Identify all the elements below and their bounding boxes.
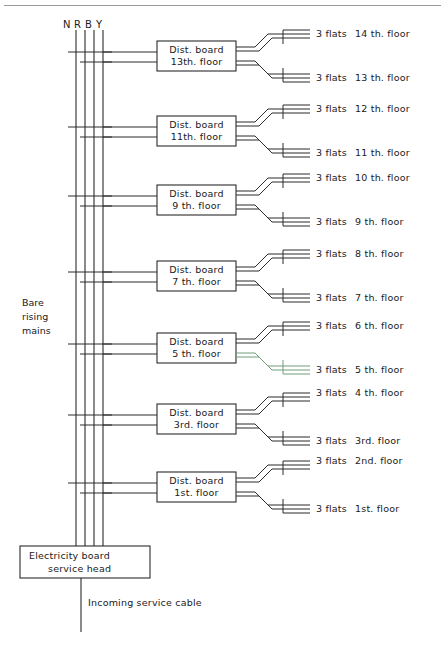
riser-group-1st-floor: Dist. board 1st. floor (68, 461, 310, 513)
flat-feed-flats-10th: 3 flats (316, 172, 347, 183)
service-head-label-line-2: service head (48, 563, 111, 574)
dist-board-label-line1-7: Dist. board (169, 264, 223, 275)
phase-label-N: N (63, 19, 72, 30)
branch-dn-w2-11th (236, 140, 310, 153)
riser-group-7th-floor: Dist. board 7 th. floor (68, 250, 310, 302)
branch-up-w2-12th (236, 113, 310, 126)
rising-mains-label-line-3: mains (22, 325, 51, 336)
dist-board-label-line1-3: Dist. board (169, 407, 223, 418)
branch-up-w2-2nd (236, 469, 310, 482)
flat-feed-flats-3rd: 3 flats (316, 435, 347, 446)
flat-feed-flats-13th: 3 flats (316, 72, 347, 83)
branch-up-w2-6th (236, 330, 310, 343)
rising-mains-label-line-2: rising (22, 311, 48, 322)
incoming-service-cable: Incoming service cable (81, 578, 202, 632)
flat-feed-floor-12th: 12 th. floor (355, 103, 410, 114)
flat-feed-labels: 3 flats 14 th. floor 3 flats 13 th. floo… (316, 28, 410, 514)
flat-feed-floor-1st: 1st. floor (355, 503, 399, 514)
flat-feed-flats-14th: 3 flats (316, 28, 347, 39)
branch-up-w1-6th (236, 326, 310, 339)
riser-group-5th-floor: Dist. board 5 th. floor (68, 322, 310, 374)
branch-dn-w2-3rd (236, 428, 310, 441)
riser-diagram-canvas: N R B Y Bare rising mains Dist. board 13… (0, 0, 445, 648)
branch-up-w1-8th (236, 254, 310, 267)
flat-feed-flats-7th: 3 flats (316, 292, 347, 303)
dist-board-label-line1-1: Dist. board (169, 475, 223, 486)
branch-up-w2-10th (236, 182, 310, 195)
bare-rising-mains-label: Bare rising mains (22, 297, 51, 336)
flat-feed-floor-13th: 13 th. floor (355, 72, 410, 83)
branch-dn-w1-3rd (236, 424, 310, 437)
dist-board-label-line1-9: Dist. board (169, 188, 223, 199)
flat-feed-floor-4th: 4 th. floor (355, 387, 404, 398)
branch-dn-w2-7th (236, 285, 310, 298)
riser-diagram: N R B Y Bare rising mains Dist. board 13… (0, 0, 445, 648)
flat-feed-flats-1st: 3 flats (316, 503, 347, 514)
phase-label-R: R (74, 19, 82, 30)
flat-feed-floor-7th: 7 th. floor (355, 292, 404, 303)
dist-board-label-line2-3: 3rd. floor (174, 419, 219, 430)
dist-board-label-line2-11: 11th. floor (171, 131, 223, 142)
flat-feed-floor-5th: 5 th. floor (355, 364, 404, 375)
branch-dn-w1-11th (236, 136, 310, 149)
dist-board-label-line1-5: Dist. board (169, 336, 223, 347)
flat-feed-flats-6th: 3 flats (316, 320, 347, 331)
branch-dn-w2-1st (236, 496, 310, 509)
flat-feed-flats-9th: 3 flats (316, 216, 347, 227)
flat-feed-floor-6th: 6 th. floor (355, 320, 404, 331)
riser-group-9th-floor: Dist. board 9 th. floor (68, 174, 310, 226)
riser-group-3rd-floor: Dist. board 3rd. floor (68, 393, 310, 445)
flat-feed-floor-10th: 10 th. floor (355, 172, 410, 183)
branch-up-w2-4th (236, 401, 310, 414)
branch-dn-w1-7th (236, 281, 310, 294)
service-head-label-line-1: Electricity board (29, 550, 110, 561)
branch-up-w1-4th (236, 397, 310, 410)
branch-dn-w2-13th (236, 65, 310, 78)
incoming-service-cable-label: Incoming service cable (88, 597, 202, 608)
branch-up-w2-8th (236, 258, 310, 271)
flat-feed-floor-2nd: 2nd. floor (355, 455, 403, 466)
dist-board-label-line1-13: Dist. board (169, 44, 223, 55)
phase-label-Y: Y (95, 19, 103, 30)
branch-dn-w1-9th (236, 205, 310, 218)
branch-dn-w1-13th (236, 61, 310, 74)
branch-dn-w1-5th (236, 353, 310, 366)
branch-up-w1-14th (236, 34, 310, 47)
dist-board-label-line2-7: 7 th. floor (172, 276, 221, 287)
branch-up-w1-12th (236, 109, 310, 122)
branch-dn-w1-1st (236, 492, 310, 505)
phase-labels-group: N R B Y (63, 19, 103, 30)
flat-feed-flats-4th: 3 flats (316, 387, 347, 398)
flat-feed-floor-14th: 14 th. floor (355, 28, 410, 39)
phase-label-B: B (85, 19, 93, 30)
dist-board-label-line2-5: 5 th. floor (172, 348, 221, 359)
flat-feed-flats-2nd: 3 flats (316, 455, 347, 466)
flat-feed-floor-11th: 11 th. floor (355, 147, 410, 158)
flat-feed-floor-9th: 9 th. floor (355, 216, 404, 227)
branch-up-w1-10th (236, 178, 310, 191)
rising-mains-label-line-1: Bare (22, 297, 44, 308)
flat-feed-floor-3rd: 3rd. floor (355, 435, 400, 446)
electricity-board-service-head[interactable]: Electricity board service head (20, 546, 150, 578)
branch-dn-w2-9th (236, 209, 310, 222)
riser-group-13th-floor: Dist. board 13th. floor (68, 30, 310, 82)
branch-up-w2-14th (236, 38, 310, 51)
flat-feed-flats-8th: 3 flats (316, 248, 347, 259)
flat-feed-floor-8th: 8 th. floor (355, 248, 404, 259)
branch-dn-w2-5th (236, 357, 310, 370)
dist-board-label-line2-13: 13th. floor (171, 56, 223, 67)
dist-board-label-line2-9: 9 th. floor (172, 200, 221, 211)
flat-feed-flats-11th: 3 flats (316, 147, 347, 158)
branch-up-w1-2nd (236, 465, 310, 478)
flat-feed-flats-5th: 3 flats (316, 364, 347, 375)
riser-group-11th-floor: Dist. board 11th. floor (68, 105, 310, 157)
bare-rising-mains (76, 30, 103, 547)
dist-board-label-line2-1: 1st. floor (174, 487, 218, 498)
flat-feed-flats-12th: 3 flats (316, 103, 347, 114)
dist-board-label-line1-11: Dist. board (169, 119, 223, 130)
